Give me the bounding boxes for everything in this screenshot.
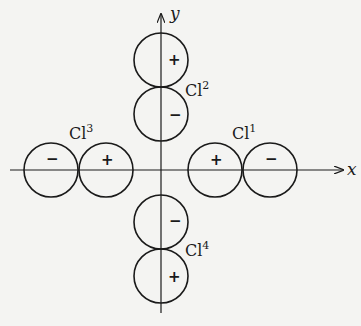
cl1-label: Cl1 (232, 122, 256, 143)
ligand-cl4: − + Cl4 (134, 195, 209, 303)
ligand-cl1: + − Cl1 (188, 122, 297, 197)
cl1-outer-sign: − (265, 150, 278, 168)
cl3-inner-sign: + (101, 151, 114, 169)
y-axis-label: y (169, 3, 180, 23)
orbital-diagram: x y + − Cl2 − + Cl3 + − Cl1 − + Cl4 (0, 0, 361, 326)
x-axis-label: x (347, 159, 357, 179)
ligand-cl3: − + Cl3 (24, 122, 133, 197)
cl4-outer-sign: + (168, 268, 181, 286)
cl2-inner-sign: − (169, 106, 182, 124)
cl4-label: Cl4 (185, 239, 209, 260)
cl1-inner-sign: + (210, 151, 223, 169)
ligand-cl2: + − Cl2 (134, 33, 209, 141)
cl3-outer-sign: − (46, 150, 59, 168)
cl2-outer-sign: + (168, 51, 181, 69)
cl4-inner-sign: − (169, 212, 182, 230)
cl2-label: Cl2 (185, 79, 209, 100)
cl3-label: Cl3 (69, 122, 93, 143)
